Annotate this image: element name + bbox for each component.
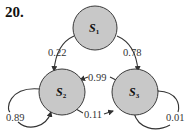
self-loop-s3 [158, 91, 179, 112]
edge-s2-s3-head [104, 111, 113, 114]
state-s1: S1 [73, 6, 117, 50]
state-s3: S3 [112, 69, 158, 115]
label-s1-s2: 0.22 [48, 47, 66, 58]
label-s3-self: 0.01 [166, 112, 184, 123]
self-loop-s2 [8, 89, 40, 112]
label-s2-self: 0.89 [6, 112, 24, 123]
self-loop-s3-tail [134, 113, 170, 129]
label-s3-s2: 0.99 [88, 72, 106, 83]
state-s2: S2 [39, 69, 85, 115]
label-s1-s3: 0.78 [123, 47, 141, 58]
label-s2-s3: 0.11 [84, 109, 102, 120]
markov-chain-diagram: S1 S2 S3 0.22 0.78 0.99 0.11 0.89 0.01 [0, 0, 185, 134]
